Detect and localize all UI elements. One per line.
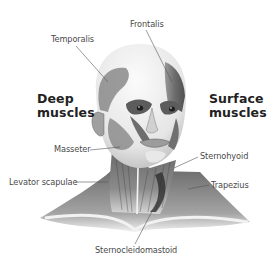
surface-muscles-heading: Surface muscles bbox=[209, 92, 267, 120]
levator-scapulae-label: Levator scapulae bbox=[9, 177, 77, 187]
frontalis-label: Frontalis bbox=[130, 19, 164, 29]
deep-muscles-heading-line2: muscles bbox=[37, 106, 95, 120]
surface-muscles-heading-line2: muscles bbox=[209, 106, 267, 120]
muscle-diagram: Deep muscles Surface muscles Frontalis T… bbox=[0, 0, 270, 267]
trapezius-label: Trapezius bbox=[211, 180, 249, 190]
head-shape bbox=[92, 44, 186, 168]
sternocleidomastoid-label: Sternocleidomastoid bbox=[95, 245, 177, 255]
sternohyoid-label: Sternohyoid bbox=[200, 151, 248, 161]
head-illustration bbox=[0, 0, 270, 267]
masseter-label: Masseter bbox=[54, 144, 90, 154]
deep-muscles-heading: Deep muscles bbox=[37, 92, 95, 120]
temporalis-label: Temporalis bbox=[51, 34, 94, 44]
surface-muscles-heading-line1: Surface bbox=[209, 92, 267, 106]
deep-muscles-heading-line1: Deep bbox=[37, 92, 95, 106]
sternohyoid-leader bbox=[174, 157, 198, 168]
